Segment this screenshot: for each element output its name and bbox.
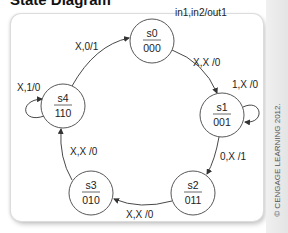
state-s0: s0 000 [130, 19, 174, 63]
edge-label-s0-s1: X,X /0 [193, 57, 221, 68]
edge-label-s3-s4: X,X /0 [70, 146, 98, 157]
state-code: 001 [213, 116, 231, 128]
edge-s2-s3 [114, 199, 172, 205]
state-s4: s4 110 [41, 84, 85, 128]
edge-label-s4-s4: X,1/0 [17, 82, 41, 93]
edge-label-s1-s2: 0,X /1 [220, 151, 247, 162]
edge-label-s1-s1: 1,X /0 [232, 79, 259, 90]
state-code: 011 [185, 194, 202, 206]
edge-s1-s2 [207, 137, 219, 174]
state-s2: s2 011 [171, 171, 215, 215]
state-name: s0 [146, 27, 157, 39]
state-s3: s3 010 [69, 171, 113, 215]
edge-s1-s1 [243, 105, 259, 122]
edge-label-s2-s3: X,X /0 [126, 209, 154, 220]
state-code: 010 [82, 194, 100, 206]
edge-label-s4-s0: X,0/1 [75, 41, 99, 52]
state-name: s3 [85, 179, 96, 191]
state-code: 110 [55, 107, 72, 119]
io-legend: in1,in2/out1 [175, 7, 227, 18]
state-name: s4 [57, 92, 68, 104]
state-diagram: in1,in2/out1 X,0/1 X,X /0 1,X /0 0,X /1 … [0, 0, 288, 233]
state-code: 000 [143, 42, 161, 54]
state-name: s1 [216, 101, 227, 113]
state-name: s2 [187, 179, 198, 191]
state-s1: s1 001 [200, 93, 244, 137]
